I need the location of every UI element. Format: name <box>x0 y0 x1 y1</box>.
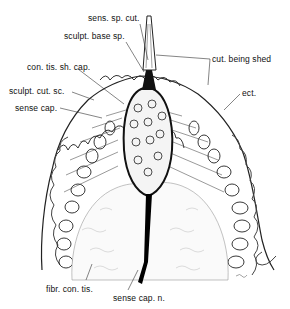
label-sens-sp-cut: sens. sp. cut. <box>88 14 139 23</box>
anatomical-illustration <box>0 0 290 309</box>
label-cut-being-shed: cut. being shed <box>212 55 271 64</box>
label-sculpt-cut-sc: sculpt. cut. sc. <box>9 87 64 96</box>
spine <box>143 16 156 70</box>
label-con-tis-sh-cap: con. tis. sh. cap. <box>27 63 90 72</box>
label-sense-cap-n: sense cap. n. <box>113 294 165 303</box>
label-sculpt-base-sp: sculpt. base sp. <box>64 32 125 41</box>
label-fibr-con-tis: fibr. con. tis. <box>46 285 93 294</box>
label-ect: ect. <box>242 89 256 98</box>
label-sense-cap: sense cap. <box>15 104 57 113</box>
